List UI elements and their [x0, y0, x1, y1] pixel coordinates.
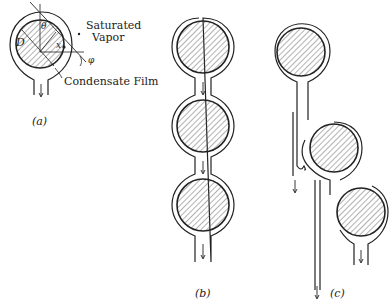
caption-b: (b)	[195, 287, 211, 300]
x-label: x	[56, 40, 61, 50]
panel-c-tubes	[275, 24, 388, 299]
panel-b-tubes	[172, 18, 234, 262]
caption-c: (c)	[330, 287, 345, 300]
phi-label: φ	[88, 55, 94, 65]
theta-label: θ	[41, 21, 46, 31]
diameter-label: D	[16, 36, 25, 49]
caption-a: (a)	[32, 115, 47, 128]
vapor-dot	[78, 33, 80, 35]
point-x-marker	[62, 45, 65, 48]
saturated-vapor-label-line2: Vapor	[92, 32, 124, 44]
condensate-film-label: Condensate Film	[64, 76, 159, 88]
